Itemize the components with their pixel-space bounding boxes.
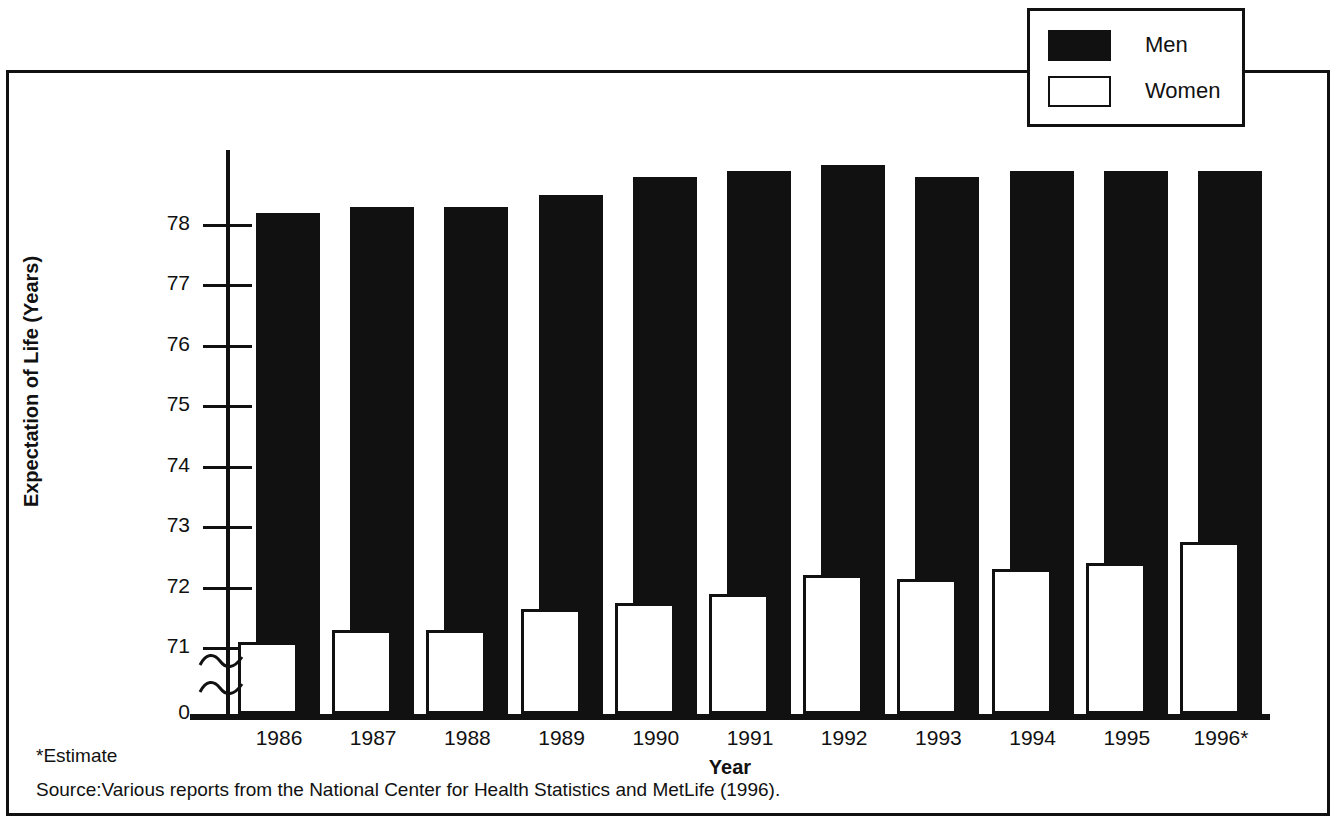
x-axis-title: Year: [190, 756, 1270, 779]
footnote-source: Source:Various reports from the National…: [36, 779, 780, 801]
bar-women-1989: [521, 609, 581, 714]
axis-break-squiggle-lower: [198, 678, 258, 700]
bar-women-1991: [709, 594, 769, 714]
y-tick-label: 74: [148, 453, 190, 477]
y-axis-line: [226, 150, 230, 716]
y-tick-mark: [203, 224, 252, 227]
legend-item-men: Men: [1048, 26, 1188, 64]
legend-item-women: Women: [1048, 72, 1220, 110]
y-tick-label: 73: [148, 513, 190, 537]
bar-men-1986: [256, 213, 320, 714]
x-tick-label: 1996*: [1164, 726, 1278, 750]
legend-label-men: Men: [1145, 32, 1188, 58]
y-tick-label: 77: [148, 271, 190, 295]
footnote-estimate: *Estimate: [36, 745, 117, 767]
y-tick-mark: [203, 587, 252, 590]
y-tick-label: 72: [148, 574, 190, 598]
y-tick-mark: [203, 284, 252, 287]
y-tick-mark: [203, 345, 252, 348]
chart-legend: Men Women: [1027, 8, 1245, 127]
axis-break-squiggle-upper: [198, 651, 258, 673]
y-tick-label: 71: [148, 634, 190, 658]
bar-women-1987: [332, 630, 392, 714]
legend-swatch-women-icon: [1048, 76, 1111, 107]
bar-women-1992: [803, 575, 863, 714]
y-tick-mark: [203, 526, 252, 529]
figure-page: 78777675747372710 1986198719881989199019…: [0, 0, 1339, 821]
bar-women-1994: [992, 569, 1052, 714]
bar-women-1988: [426, 630, 486, 714]
bar-women-1993: [897, 579, 957, 714]
legend-swatch-men-icon: [1048, 30, 1111, 61]
x-axis-line: [190, 714, 1270, 720]
y-tick-mark: [203, 405, 252, 408]
bar-women-1990: [615, 603, 675, 714]
bar-women-1995: [1086, 563, 1146, 714]
y-tick-label: 76: [148, 332, 190, 356]
y-tick-mark: [203, 466, 252, 469]
y-tick-label: 78: [148, 211, 190, 235]
y-axis-title: Expectation of Life (Years): [20, 212, 43, 552]
legend-label-women: Women: [1145, 78, 1220, 104]
bar-women-1996: [1180, 542, 1240, 714]
y-tick-label: 0: [148, 700, 190, 724]
y-tick-label: 75: [148, 392, 190, 416]
